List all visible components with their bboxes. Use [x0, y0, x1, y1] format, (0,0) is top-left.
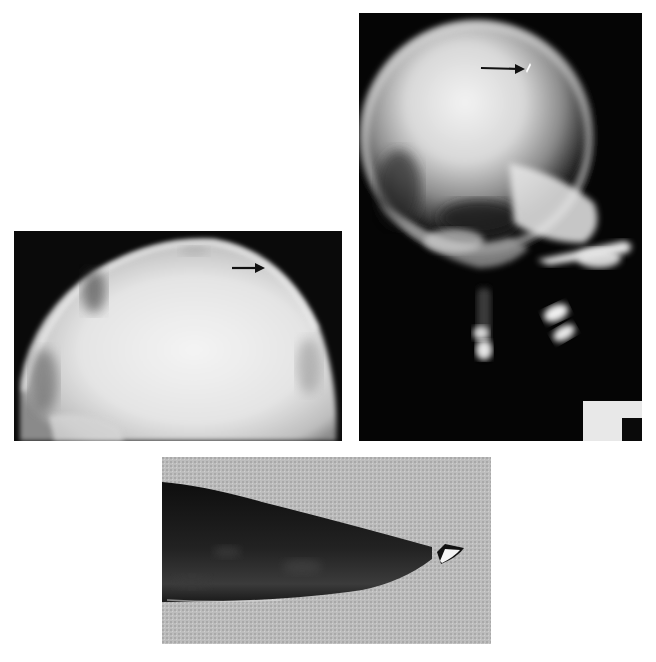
vault-xray-image — [14, 231, 342, 441]
knife-photo — [162, 457, 491, 644]
lateral-skull-xray-image — [359, 13, 642, 441]
lateral-skull-xray — [359, 13, 642, 441]
knife-photo-image — [162, 457, 491, 644]
vault-xray — [14, 231, 342, 441]
